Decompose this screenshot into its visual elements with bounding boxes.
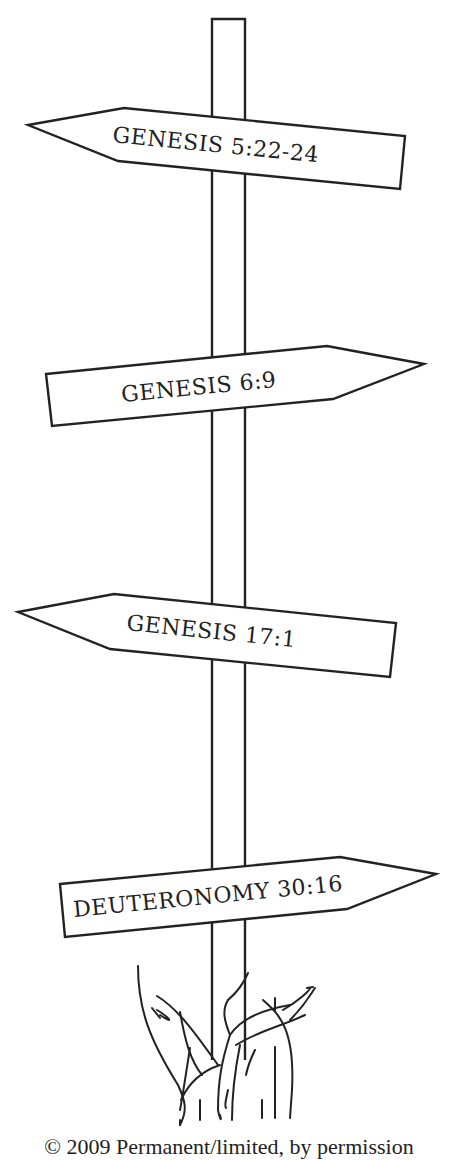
copyright-caption: © 2009 Permanent/limited, by permission (0, 1134, 458, 1160)
sign-deuteronomy-30-16: DEUTERONOMY 30:16 (60, 857, 436, 937)
sign-genesis-17-1: GENESIS 17:1 (18, 594, 396, 677)
